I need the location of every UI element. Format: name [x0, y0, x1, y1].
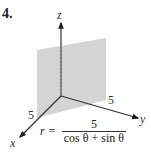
equation-denominator: cos θ + sin θ — [64, 132, 124, 145]
equation-fraction: 5 cos θ + sin θ — [64, 118, 124, 145]
y-axis-label: y — [140, 112, 145, 127]
z-axis-label: z — [57, 8, 62, 23]
y-tick-5: 5 — [108, 93, 114, 108]
equation-lhs: r = — [40, 124, 56, 139]
equation-numerator: 5 — [62, 118, 126, 132]
x-axis-label: x — [10, 136, 15, 151]
x-tick-5: 5 — [28, 108, 34, 123]
plane-equation: r = 5 cos θ + sin θ — [40, 118, 124, 145]
